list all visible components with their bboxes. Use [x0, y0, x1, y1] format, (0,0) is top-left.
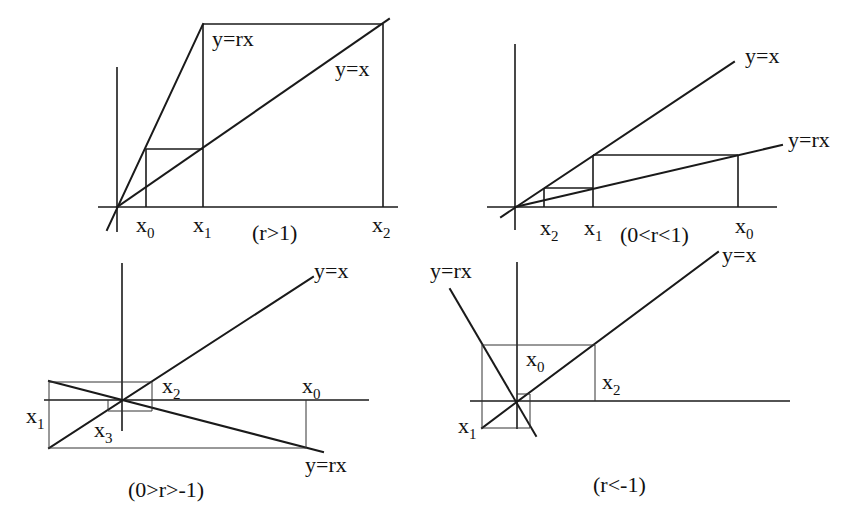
panel-caption: (r<-1) — [593, 472, 646, 497]
map-line-label: y=rx — [430, 258, 472, 283]
iterate-label-x0: x0 — [302, 373, 321, 402]
iterate-label-x0: x0 — [136, 212, 155, 241]
panel-r-gt-1: y=rx y=x x0 x1 x2 (r>1) — [98, 19, 398, 245]
iterate-label-x3: x3 — [94, 417, 113, 446]
panel-0-lt-r-lt-1: y=x y=rx x2 x1 x0 (0<r<1) — [487, 43, 830, 247]
iterate-label-x2: x2 — [162, 373, 181, 402]
iterate-label-x1: x1 — [26, 403, 45, 432]
iterate-label-x0: x0 — [735, 213, 754, 242]
panel-minus1-lt-r-lt-0: y=x y=rx x1 x3 x2 x0 (0>r>-1) — [26, 258, 369, 502]
map-line-y-rx — [107, 24, 203, 230]
iterate-label-x1: x1 — [193, 212, 212, 241]
iterate-label-x2: x2 — [602, 369, 621, 398]
map-line-label: y=rx — [788, 127, 830, 152]
identity-line-label: y=x — [314, 258, 348, 283]
iterate-label-x2: x2 — [372, 212, 391, 241]
iterate-label-x1: x1 — [458, 413, 477, 442]
panel-caption: (0<r<1) — [620, 222, 689, 247]
identity-line-label: y=x — [745, 43, 779, 68]
iterate-label-x0: x0 — [526, 346, 545, 375]
panel-caption: (0>r>-1) — [128, 477, 204, 502]
identity-line-label: y=x — [722, 242, 756, 267]
map-line-y-rx — [49, 381, 323, 452]
identity-line-y-x — [501, 62, 734, 217]
map-line-label: y=rx — [212, 26, 254, 51]
iterate-label-x2: x2 — [540, 215, 559, 244]
panel-r-lt-minus1: y=rx y=x x0 x2 x1 (r<-1) — [430, 242, 790, 497]
identity-line-label: y=x — [335, 56, 369, 81]
identity-line-y-x — [49, 277, 313, 448]
panel-caption: (r>1) — [252, 220, 297, 245]
map-line-label: y=rx — [305, 452, 347, 477]
cobweb-figure: y=rx y=x x0 x1 x2 (r>1) y=x y=rx x2 x1 x… — [0, 0, 855, 517]
iterate-label-x1: x1 — [584, 215, 603, 244]
